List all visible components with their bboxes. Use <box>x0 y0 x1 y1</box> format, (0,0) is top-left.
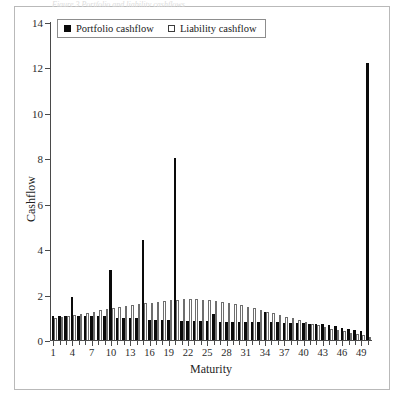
y-tick-mark <box>45 250 50 251</box>
x-tick-mark <box>182 341 183 345</box>
x-tick-label: 43 <box>318 347 329 358</box>
x-tick-label: 4 <box>70 347 75 358</box>
bar-liability <box>61 317 64 340</box>
bar-liability <box>350 333 353 340</box>
bar-liability <box>272 313 275 340</box>
x-tick-mark <box>117 341 118 345</box>
bar-liability <box>208 300 211 340</box>
x-tick-label: 13 <box>125 347 136 358</box>
bar-liability <box>80 314 83 340</box>
bar-liability <box>279 315 282 340</box>
figure-caption-sliver: Figure 3 Portfolio and liability cashflo… <box>52 0 282 7</box>
x-tick-mark <box>92 341 93 346</box>
x-tick-mark <box>79 341 80 345</box>
x-tick-mark <box>169 341 170 346</box>
x-tick-mark <box>85 341 86 345</box>
legend-entry-liability: Liability cashflow <box>168 23 257 34</box>
bar-liability <box>305 322 308 340</box>
x-tick-mark <box>304 341 305 346</box>
x-tick-mark <box>207 341 208 346</box>
bar-portfolio <box>366 63 369 340</box>
bar-liability <box>170 300 173 340</box>
bar-liability <box>356 334 359 340</box>
bar-group <box>51 22 372 340</box>
x-tick-mark <box>271 341 272 345</box>
x-tick-mark <box>60 341 61 345</box>
x-tick-label: 37 <box>279 347 290 358</box>
x-tick-mark <box>188 341 189 346</box>
filled-square-icon <box>64 25 71 32</box>
x-tick-mark <box>156 341 157 345</box>
bar-liability <box>266 312 269 340</box>
bar-liability <box>317 325 320 340</box>
bar-liability <box>330 329 333 340</box>
legend-entry-portfolio: Portfolio cashflow <box>64 23 154 34</box>
x-tick-mark <box>336 341 337 345</box>
y-axis-title: Cashflow <box>24 176 39 222</box>
x-tick-mark <box>233 341 234 345</box>
y-tick-mark <box>45 205 50 206</box>
bar-liability <box>292 318 295 340</box>
bar-liability <box>234 304 237 340</box>
bar-liability <box>151 303 154 340</box>
chart-legend: Portfolio cashflow Liability cashflow <box>57 19 266 38</box>
x-tick-mark <box>278 341 279 345</box>
x-tick-mark <box>368 341 369 345</box>
bar-liability <box>337 330 340 340</box>
open-square-icon <box>168 25 175 32</box>
x-tick-label: 19 <box>164 347 175 358</box>
x-tick-mark <box>150 341 151 346</box>
y-tick-mark <box>45 114 50 115</box>
bar-liability <box>183 299 186 340</box>
y-tick-label: 2 <box>38 290 44 302</box>
y-tick-label: 4 <box>38 244 44 256</box>
bar-liability <box>118 307 121 340</box>
x-tick-mark <box>105 341 106 345</box>
bar-liability <box>228 303 231 340</box>
bar-liability <box>112 308 115 340</box>
x-tick-mark <box>98 341 99 345</box>
legend-label-liability: Liability cashflow <box>180 23 257 34</box>
bar-liability <box>176 300 179 340</box>
bar-liability <box>131 305 134 340</box>
bar-liability <box>106 309 109 340</box>
x-tick-mark <box>220 341 221 345</box>
x-tick-mark <box>53 341 54 346</box>
x-tick-mark <box>323 341 324 346</box>
bar-liability <box>195 299 198 340</box>
bar-liability <box>189 299 192 340</box>
x-tick-mark <box>66 341 67 345</box>
bar-liability <box>125 306 128 340</box>
x-tick-mark <box>355 341 356 345</box>
bar-liability <box>369 337 372 340</box>
y-tick-mark <box>45 341 50 342</box>
x-tick-mark <box>361 341 362 346</box>
bar-liability <box>73 315 76 340</box>
x-tick-mark <box>246 341 247 346</box>
x-tick-label: 16 <box>144 347 155 358</box>
x-tick-mark <box>227 341 228 346</box>
x-tick-mark <box>349 341 350 345</box>
bar-liability <box>157 302 160 340</box>
bar-liability <box>343 331 346 340</box>
bar-liability <box>285 317 288 340</box>
bar-liability <box>324 327 327 340</box>
y-tick-mark <box>45 68 50 69</box>
bar-liability <box>163 301 166 340</box>
x-tick-label: 49 <box>356 347 367 358</box>
x-tick-label: 7 <box>89 347 94 358</box>
bar-liability <box>247 307 250 340</box>
x-tick-mark <box>201 341 202 345</box>
bar-liability <box>86 313 89 340</box>
x-tick-mark <box>239 341 240 345</box>
bar-liability <box>144 303 147 340</box>
bar-liability <box>215 301 218 340</box>
bar-liability <box>67 316 70 340</box>
x-tick-mark <box>194 341 195 345</box>
y-tick-mark <box>45 296 50 297</box>
y-tick-label: 12 <box>32 62 43 74</box>
y-tick-label: 14 <box>32 17 43 29</box>
y-tick-label: 8 <box>38 153 44 165</box>
legend-label-portfolio: Portfolio cashflow <box>76 23 154 34</box>
bar-liability <box>253 308 256 340</box>
